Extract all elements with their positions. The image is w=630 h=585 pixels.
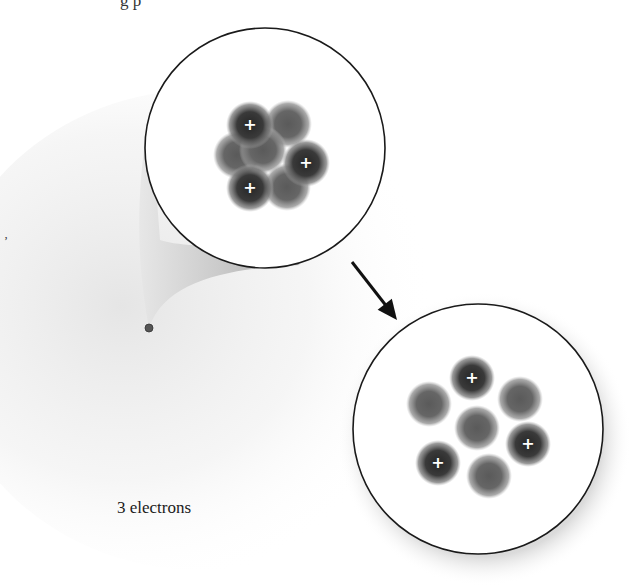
- plus-sign-icon: +: [465, 368, 478, 387]
- zoom-circle-top: +++: [145, 28, 385, 268]
- neutron-icon: [497, 376, 543, 422]
- cropped-caption-fragment: g p: [120, 0, 141, 11]
- plus-sign-icon: +: [243, 115, 256, 134]
- neutron-icon: [466, 453, 512, 499]
- electron-count-label: 3 electrons: [117, 498, 191, 518]
- plus-sign-icon: +: [299, 153, 312, 172]
- stray-mark: ʼ: [4, 234, 8, 249]
- neutron-icon: [454, 405, 500, 451]
- plus-sign-icon: +: [521, 434, 534, 453]
- neutron-icon: [406, 381, 452, 427]
- zoom-circle-bottom: +++: [353, 304, 603, 554]
- atom-nucleus-diagram: g p ʼ: [0, 0, 630, 585]
- atom-point-icon: [145, 324, 153, 332]
- diagram-canvas: +++ +++: [0, 0, 630, 585]
- plus-sign-icon: +: [243, 178, 256, 197]
- plus-sign-icon: +: [431, 453, 444, 472]
